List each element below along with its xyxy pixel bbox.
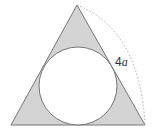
side-length-label: 4a xyxy=(115,55,128,69)
inscribed-circle xyxy=(39,47,117,125)
inscribed-circle-diagram: 4a xyxy=(0,0,157,134)
